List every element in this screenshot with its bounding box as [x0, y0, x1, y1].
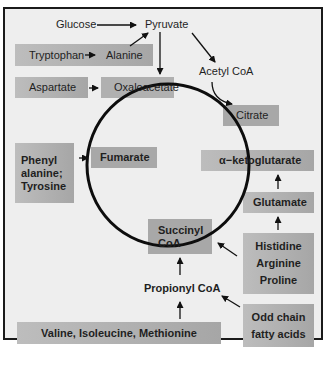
label-glucose: Glucose — [56, 18, 96, 30]
label-histidine-arginine-proline: Histidine Arginine Proline — [243, 233, 314, 294]
label-odd-chain-fatty-acids: Odd chain fatty acids — [243, 304, 314, 347]
label-tryptophan: Tryptophan — [29, 49, 84, 61]
label-alpha-ketoglutarate: α−ketoglutarate — [219, 154, 301, 166]
label-phenylalanine-tyrosine: Phenyl alanine; Tyrosine — [15, 143, 74, 203]
label-citrate: Citrate — [236, 109, 268, 121]
label-alanine-semicolon: alanine; — [21, 167, 63, 180]
label-proline: Proline — [260, 272, 297, 289]
label-arginine: Arginine — [256, 255, 301, 272]
arrow-oddchain-propionyl — [222, 296, 240, 307]
label-succinyl-coa: Succinyl CoA — [148, 219, 212, 254]
label-aspartate: Aspartate — [29, 81, 76, 93]
arrow-alanine-pyruvate — [130, 33, 148, 46]
label-odd-chain: Odd chain — [252, 309, 306, 326]
label-histidine: Histidine — [255, 238, 301, 255]
label-tyrosine: Tyrosine — [21, 180, 66, 193]
arrow-histidine-succinyl — [218, 243, 237, 256]
label-fumarate: Fumarate — [100, 151, 150, 163]
label-glutamate: Glutamate — [253, 196, 307, 208]
label-phenyl: Phenyl — [21, 154, 57, 167]
label-pyruvate: Pyruvate — [145, 18, 188, 30]
label-acetyl-coa: Acetyl CoA — [199, 65, 253, 77]
label-alanine: Alanine — [106, 49, 143, 61]
label-coa: CoA — [158, 237, 181, 250]
label-oxaloacetate: Oxaloacetate — [114, 81, 179, 93]
label-valine-group: Valine, Isoleucine, Methionine — [17, 322, 221, 344]
label-fatty-acids: fatty acids — [251, 326, 305, 343]
label-propionyl-coa: Propionyl CoA — [144, 282, 220, 294]
label-succinyl: Succinyl — [158, 224, 203, 237]
arrow-pyruvate-acetylcoa — [192, 33, 215, 62]
